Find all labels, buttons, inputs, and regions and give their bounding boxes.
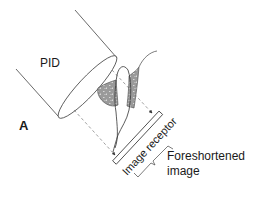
ray-lower	[74, 110, 115, 155]
gingiva-line	[139, 51, 157, 67]
pid-bottom-edge	[16, 69, 58, 116]
pid-top-edge	[75, 10, 117, 58]
tooth-outline	[113, 67, 131, 152]
foreshortened-label-line1: Foreshortened	[167, 149, 245, 163]
foreshortened-label-line2: image	[167, 164, 200, 178]
pid-label: PID	[40, 56, 60, 70]
foreshortening-diagram: Image receptor PID A Foreshortened image	[0, 0, 263, 204]
pid-cylinder	[16, 10, 123, 124]
panel-label: A	[19, 118, 29, 133]
